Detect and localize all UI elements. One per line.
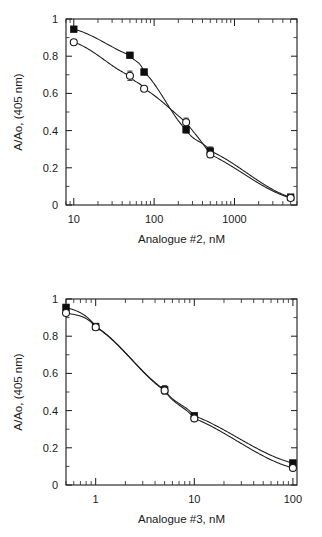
y-axis-title: A/Ao, (405 nm) [12,73,24,151]
y-axis-title: A/Ao, (405 nm) [12,353,24,431]
x-axis-title: Analogue #2, nM [138,233,225,245]
y-tick-label: 0.2 [43,162,58,174]
analogue-2-plot: 00.20.40.60.81101001000Analogue #2, nMA/… [0,0,322,268]
data-point-open-circle [70,39,77,46]
y-tick-label: 0 [52,479,58,491]
data-point-filled-square [127,52,134,59]
fit-curve-filled-square-series [74,29,291,197]
chart-panel-analogue-2: 00.20.40.60.81101001000Analogue #2, nMA/… [0,0,322,268]
y-tick-label: 0.6 [43,87,58,99]
plot-frame [66,299,297,485]
data-point-open-circle [141,85,148,92]
data-point-open-circle [126,72,133,79]
y-tick-label: 0.4 [43,405,58,417]
data-point-open-circle [191,415,198,422]
y-tick-label: 0.4 [43,125,58,137]
y-tick-label: 1 [52,13,58,25]
data-point-filled-square [70,26,77,33]
data-point-open-circle [63,309,70,316]
x-tick-label: 100 [284,493,302,505]
y-tick-label: 0.8 [43,50,58,62]
plot-frame [66,19,297,205]
y-tick-label: 0.2 [43,442,58,454]
y-tick-label: 1 [52,293,58,305]
fit-curve-filled-square-series [66,307,293,463]
x-tick-label: 10 [68,213,80,225]
x-tick-label: 1 [93,493,99,505]
data-point-open-circle [161,387,168,394]
data-point-open-circle [207,151,214,158]
data-point-open-circle [289,464,296,471]
y-tick-label: 0.6 [43,367,58,379]
x-tick-label: 1000 [222,213,246,225]
data-point-open-circle [183,119,190,126]
chart-panel-analogue-3: 00.20.40.60.81110100Analogue #3, nMA/Ao,… [0,268,322,537]
data-point-open-circle [287,194,294,201]
analogue-3-plot: 00.20.40.60.81110100Analogue #3, nMA/Ao,… [0,268,322,537]
x-axis-title: Analogue #3, nM [138,513,225,525]
data-point-filled-square [183,126,190,133]
fit-curve-open-circle-series [74,42,291,198]
fit-curve-open-circle-series [66,313,293,468]
x-tick-label: 100 [145,213,163,225]
y-tick-label: 0 [52,199,58,211]
data-point-filled-square [141,69,148,76]
x-tick-label: 10 [188,493,200,505]
data-point-open-circle [92,324,99,331]
y-tick-label: 0.8 [43,330,58,342]
